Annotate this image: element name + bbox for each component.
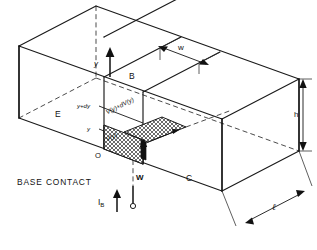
dimension-label-w: w [178,44,184,52]
level-label-y-plus-dy: y+dy [77,103,90,109]
base-contact-caption: BASE CONTACT [17,178,92,186]
transistor-isometric-drawing [0,0,317,250]
base-current-label: IB [98,198,104,206]
origin-label: O [95,152,101,160]
figure-container: E B C y O y+dy y V(y)+dV(y) V(y) W w h ℓ… [0,0,317,250]
y-axis-label: y [94,60,98,68]
solid-body-faces [19,6,299,191]
terminal-node [130,203,135,208]
region-label-collector: C [186,174,192,183]
current-subscript: B [100,201,104,208]
base-contact-lead [130,160,135,209]
region-label-emitter: E [55,110,61,119]
base-current-arrow [113,189,121,212]
slab-width-label: W [136,174,144,182]
dimension-label-h: h [294,111,298,119]
level-label-y: y [87,126,90,132]
region-label-base: B [129,72,135,81]
dimension-line-h [299,79,312,151]
dimension-label-l: ℓ [272,203,276,212]
